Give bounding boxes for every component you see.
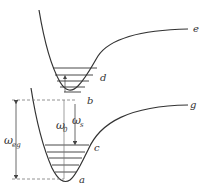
label-b: b <box>87 95 93 106</box>
lower-potential-curve <box>31 88 188 182</box>
label-omega-s: ω s <box>72 114 84 129</box>
energy-level-diagram: e g d b c a ω eg ω 0 ω s <box>0 0 204 192</box>
label-d: d <box>100 72 106 83</box>
svg-text:eg: eg <box>12 141 21 149</box>
label-omega-eg: ω eg <box>4 134 21 149</box>
upper-potential-curve <box>39 10 188 92</box>
svg-text:0: 0 <box>63 126 68 134</box>
label-omega-0: ω 0 <box>56 119 68 134</box>
label-e: e <box>193 23 199 34</box>
svg-text:s: s <box>80 121 84 129</box>
label-g: g <box>190 99 196 110</box>
label-a: a <box>79 174 85 185</box>
label-c: c <box>94 142 100 153</box>
